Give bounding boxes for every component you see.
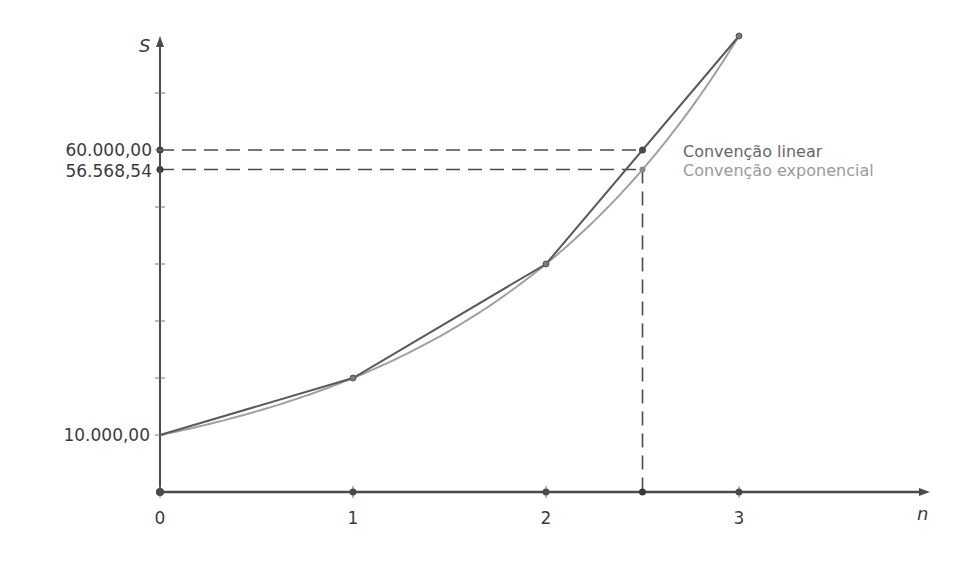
x-axis-arrow-icon	[919, 488, 930, 496]
x-axis	[157, 486, 931, 498]
x-marker-2-5	[639, 489, 646, 496]
x-tick-dot	[157, 489, 164, 496]
exponential-series-line	[160, 36, 739, 435]
data-point	[543, 261, 549, 267]
x-axis-label: n	[917, 503, 928, 524]
x-tick-label-3: 3	[734, 508, 745, 528]
data-point	[350, 375, 356, 381]
x-tick-label-1: 1	[348, 508, 359, 528]
linear-point-2-5	[639, 147, 646, 154]
y-axis-label: S	[139, 35, 150, 56]
y-axis-arrow-icon	[156, 36, 164, 47]
y-axis	[155, 36, 165, 492]
y-label-10000: 10.000,00	[63, 425, 150, 445]
compound-interest-chart: S n 60.000,00 56.568,54 10.000,00 0 1 2 …	[0, 0, 968, 562]
x-tick-dot	[736, 489, 743, 496]
y-label-56568: 56.568,54	[65, 161, 152, 181]
legend-exponential: Convenção exponencial	[683, 161, 874, 180]
data-point	[736, 33, 742, 39]
x-tick-label-2: 2	[541, 508, 552, 528]
y-label-60000: 60.000,00	[65, 140, 152, 160]
dashed-guides	[156, 147, 643, 497]
linear-series-line	[160, 36, 739, 435]
x-tick-dot	[350, 489, 357, 496]
x-tick-dot	[543, 489, 550, 496]
x-tick-label-0: 0	[155, 508, 166, 528]
legend-linear: Convenção linear	[683, 142, 823, 161]
data-points	[350, 33, 742, 381]
exponential-point-2-5	[640, 167, 646, 173]
